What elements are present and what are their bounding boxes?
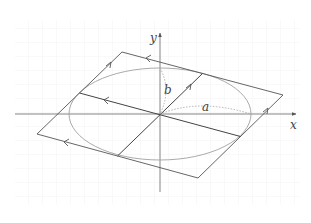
grid-background	[15, 20, 300, 205]
ellipse-diagram: y x b a	[0, 0, 311, 223]
semi-minor-label: b	[164, 83, 172, 97]
semi-major-label: a	[202, 100, 209, 114]
y-axis-label: y	[149, 31, 157, 45]
x-axis-label: x	[290, 118, 297, 132]
